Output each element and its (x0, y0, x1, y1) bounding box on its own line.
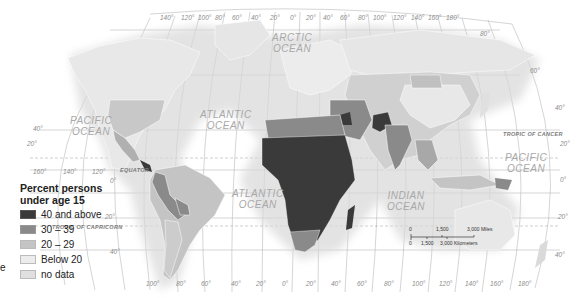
lat-label-0-right: 0° (560, 176, 566, 183)
scale-km-mid: 1,500 (421, 240, 434, 246)
png (495, 178, 512, 190)
mongolia (410, 75, 442, 88)
lon-label: 60° (357, 280, 367, 287)
legend-label: Below 20 (41, 254, 82, 265)
lon-label: 60° (340, 14, 350, 21)
lat-label-20n-right: 20° (560, 140, 570, 147)
scale-km-zero: 0 (409, 240, 412, 246)
lon-label: 60° (201, 280, 211, 287)
lon-label: 40° (331, 280, 341, 287)
lat-label-40n-right: 40° (555, 104, 565, 111)
ocean-label-atlantic-north: ATLANTICOCEAN (200, 109, 252, 131)
legend-swatch (20, 210, 36, 219)
lon-label: 80° (176, 280, 186, 287)
equator-label: EQUATOR (120, 167, 149, 173)
lon-label: 100° (412, 280, 425, 287)
lat-label-20s-right: 20° (558, 213, 568, 220)
ocean-label-pacific-east: PACIFICOCEAN (505, 152, 547, 174)
legend-swatch (20, 270, 36, 279)
lon-label: 80° (384, 280, 394, 287)
lon-label: 0° (290, 14, 296, 21)
legend-item-below-20: Below 20 (20, 252, 115, 266)
lon-label: 40° (251, 14, 261, 21)
lon-label: 20° (270, 14, 280, 21)
lon-label: 20° (256, 280, 266, 287)
legend-swatch (20, 240, 36, 249)
legend-label: 30 – 39 (41, 224, 74, 235)
lon-label: 20° (306, 14, 316, 21)
legend-item-30-39: 30 – 39 (20, 222, 115, 236)
lon-label: 160° (428, 14, 441, 21)
tropic-cancer-label: TROPIC OF CANCER (503, 131, 563, 137)
lon-label: 80° (215, 14, 225, 21)
lon-label: 40° (231, 280, 241, 287)
legend-item-no-data: no data (20, 267, 115, 281)
ocean-label-pacific-west: PACIFICOCEAN (70, 115, 112, 137)
lat-label-60n-right: 60° (530, 67, 540, 74)
lon-label: 60° (232, 14, 242, 21)
lon-label: 20° (306, 280, 316, 287)
lat-label-20n-left: 20° (27, 140, 37, 147)
lon-label: 40° (323, 14, 333, 21)
legend: Percent persons under age 15 40 and abov… (20, 182, 115, 281)
lat-label-40s-right: 40° (555, 251, 565, 258)
lon-label: 100° (146, 280, 159, 287)
legend-label: 40 and above (41, 209, 102, 220)
lon-label: 120° (439, 280, 452, 287)
lon-label-120: 120° (92, 168, 105, 175)
legend-swatch (20, 255, 36, 264)
lon-label: 180° (446, 14, 459, 21)
scale-miles-mid: 1,500 (436, 226, 449, 232)
lon-label-140: 140° (63, 168, 76, 175)
lon-label: 100° (198, 14, 211, 21)
cropped-text-fragment: e (0, 262, 6, 273)
scale-miles-zero: 0 (409, 226, 412, 232)
lon-label: 0° (282, 280, 288, 287)
lon-label: 140° (411, 14, 424, 21)
legend-label: no data (41, 269, 74, 280)
lon-label-160: 160° (33, 168, 46, 175)
lat-label-40n-left: 40° (33, 125, 43, 132)
lon-label: 120° (393, 14, 406, 21)
lat-label-80n-right: 80° (480, 30, 490, 37)
ocean-label-arctic: ARCTICOCEAN (272, 32, 312, 54)
legend-item-20-29: 20 – 29 (20, 237, 115, 251)
legend-label: 20 – 29 (41, 239, 74, 250)
legend-item-40-above: 40 and above (20, 207, 115, 221)
lon-label: 180° (518, 280, 531, 287)
scale-miles-end: 3,000 Miles (467, 226, 493, 232)
lon-label: 140° (160, 14, 173, 21)
lon-label: 120° (181, 14, 194, 21)
legend-title: Percent persons under age 15 (20, 182, 115, 206)
legend-swatch (20, 225, 36, 234)
lon-label: 140° (465, 280, 478, 287)
ocean-label-indian: INDIANOCEAN (387, 190, 425, 212)
lon-label: 100° (373, 14, 386, 21)
legend-title-line1: Percent persons (20, 182, 102, 194)
ocean-label-atlantic-south: ATLANTICOCEAN (232, 188, 284, 210)
scale-km-end: 3,000 Kilometers (440, 240, 478, 246)
lon-label: 160° (490, 280, 503, 287)
lon-label: 80° (358, 14, 368, 21)
legend-title-line2: under age 15 (20, 194, 85, 206)
